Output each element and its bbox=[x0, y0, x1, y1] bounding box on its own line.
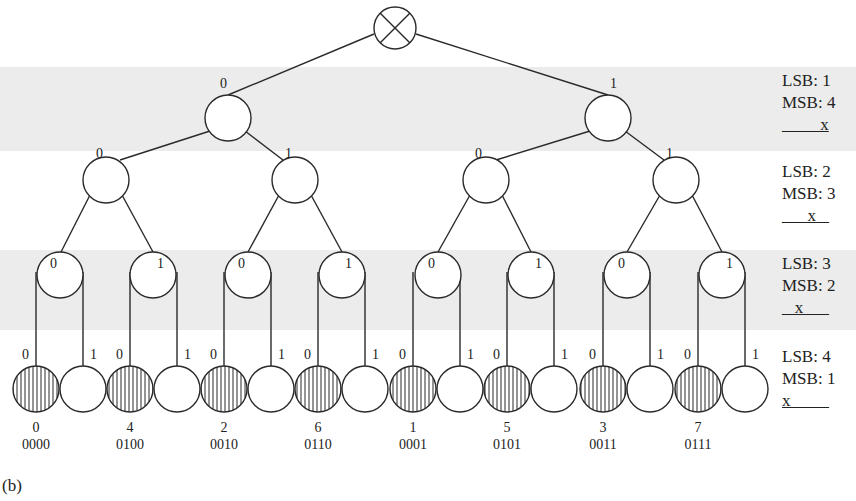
bit-pattern: _ _ x _ bbox=[782, 205, 835, 227]
leaf-plain bbox=[627, 366, 673, 412]
svg-text:1: 1 bbox=[467, 347, 474, 362]
svg-text:0: 0 bbox=[96, 146, 103, 161]
svg-text:0: 0 bbox=[493, 347, 500, 362]
leaf-plain bbox=[722, 366, 768, 412]
leaf-hatched bbox=[201, 366, 247, 412]
leaf-hatched bbox=[107, 366, 153, 412]
edge-label: 0 bbox=[220, 76, 227, 91]
svg-text:0: 0 bbox=[304, 347, 311, 362]
node-l3 bbox=[415, 252, 461, 298]
node-l3 bbox=[130, 252, 176, 298]
svg-text:1: 1 bbox=[657, 347, 664, 362]
svg-text:0: 0 bbox=[22, 347, 29, 362]
svg-text:1: 1 bbox=[278, 347, 285, 362]
lsb-label: LSB: 3 bbox=[782, 253, 835, 275]
root-node bbox=[374, 7, 416, 49]
lsb-label: LSB: 1 bbox=[782, 70, 835, 92]
leaf-label: 00000 bbox=[6, 419, 66, 453]
node-l3 bbox=[37, 252, 83, 298]
level-label-4: LSB: 4 MSB: 1 x _ _ _ bbox=[782, 346, 835, 412]
node-l2 bbox=[272, 157, 318, 203]
leaf-hatched bbox=[675, 366, 721, 412]
node-l2 bbox=[83, 157, 129, 203]
svg-text:0: 0 bbox=[116, 347, 123, 362]
leaf-label: 60110 bbox=[288, 419, 348, 453]
leaf-plain bbox=[342, 366, 388, 412]
node-l3 bbox=[508, 252, 554, 298]
svg-text:0: 0 bbox=[50, 256, 57, 271]
node-l1 bbox=[585, 95, 631, 141]
leaf-label: 50101 bbox=[477, 419, 537, 453]
node-l3 bbox=[699, 252, 745, 298]
svg-text:1: 1 bbox=[561, 347, 568, 362]
svg-text:1: 1 bbox=[90, 347, 97, 362]
leaf-plain bbox=[531, 366, 577, 412]
node-l1 bbox=[205, 95, 251, 141]
bit-pattern: _ _ _ x bbox=[782, 114, 835, 136]
leaf-plain bbox=[60, 366, 106, 412]
level-label-3: LSB: 3 MSB: 2 _ x _ _ bbox=[782, 253, 835, 319]
level-label-2: LSB: 2 MSB: 3 _ _ x _ bbox=[782, 161, 835, 227]
node-l2 bbox=[653, 157, 699, 203]
svg-text:0: 0 bbox=[684, 347, 691, 362]
lsb-label: LSB: 4 bbox=[782, 346, 835, 368]
level-label-1: LSB: 1 MSB: 4 _ _ _ x bbox=[782, 70, 835, 136]
svg-text:0: 0 bbox=[428, 256, 435, 271]
svg-text:1: 1 bbox=[345, 256, 352, 271]
leaf-label: 10001 bbox=[383, 419, 443, 453]
node-l3 bbox=[225, 252, 271, 298]
edge-label: 1 bbox=[610, 76, 617, 91]
leaf-hatched bbox=[580, 366, 626, 412]
svg-text:1: 1 bbox=[372, 347, 379, 362]
svg-text:0: 0 bbox=[238, 256, 245, 271]
svg-text:1: 1 bbox=[285, 146, 292, 161]
msb-label: MSB: 2 bbox=[782, 275, 835, 297]
svg-text:0: 0 bbox=[210, 347, 217, 362]
svg-text:1: 1 bbox=[535, 256, 542, 271]
leaf-label: 30011 bbox=[573, 419, 633, 453]
svg-text:1: 1 bbox=[666, 146, 673, 161]
node-l2 bbox=[463, 157, 509, 203]
msb-label: MSB: 1 bbox=[782, 368, 835, 390]
svg-text:0: 0 bbox=[399, 347, 406, 362]
svg-text:0: 0 bbox=[589, 347, 596, 362]
svg-text:1: 1 bbox=[184, 347, 191, 362]
msb-label: MSB: 4 bbox=[782, 92, 835, 114]
svg-text:0: 0 bbox=[618, 256, 625, 271]
bit-pattern: _ x _ _ bbox=[782, 297, 835, 319]
figure-caption: (b) bbox=[2, 476, 22, 496]
leaf-hatched bbox=[484, 366, 530, 412]
node-l3 bbox=[604, 252, 650, 298]
leaf-plain bbox=[154, 366, 200, 412]
svg-text:1: 1 bbox=[726, 256, 733, 271]
leaf-hatched bbox=[295, 366, 341, 412]
bit-pattern: x _ _ _ bbox=[782, 390, 835, 412]
leaf-label: 40100 bbox=[100, 419, 160, 453]
leaf-plain bbox=[437, 366, 483, 412]
msb-label: MSB: 3 bbox=[782, 183, 835, 205]
leaf-label: 20010 bbox=[194, 419, 254, 453]
leaf-hatched bbox=[390, 366, 436, 412]
svg-text:0: 0 bbox=[475, 146, 482, 161]
lsb-label: LSB: 2 bbox=[782, 161, 835, 183]
node-l3 bbox=[319, 252, 365, 298]
leaf-label: 70111 bbox=[668, 419, 728, 453]
svg-text:1: 1 bbox=[157, 256, 164, 271]
svg-text:1: 1 bbox=[752, 347, 759, 362]
leaf-plain bbox=[248, 366, 294, 412]
leaf-hatched bbox=[13, 366, 59, 412]
